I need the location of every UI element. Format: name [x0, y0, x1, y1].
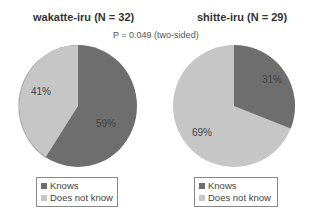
- right-legend-item-knows: Knows: [199, 180, 273, 192]
- right-pie-chart: 31% 69%: [171, 43, 299, 171]
- light-swatch-icon: [199, 195, 205, 201]
- legend-label: Does not know: [208, 192, 271, 204]
- left-pie-chart: 41% 59%: [18, 43, 140, 171]
- right-label-knows: 31%: [262, 74, 282, 85]
- dark-swatch-icon: [41, 183, 47, 189]
- legend-label: Knows: [50, 180, 79, 192]
- right-legend: Knows Does not know: [194, 177, 278, 207]
- legend-label: Knows: [208, 180, 237, 192]
- right-label-not: 69%: [192, 127, 212, 138]
- right-chart-title: shitte-iru (N = 29): [197, 11, 287, 23]
- left-label-knows: 59%: [96, 118, 116, 129]
- light-swatch-icon: [41, 195, 47, 201]
- left-chart-title: wakatte-iru (N = 32): [33, 11, 134, 23]
- left-legend-item-does-not-know: Does not know: [41, 192, 113, 204]
- left-legend-item-knows: Knows: [41, 180, 113, 192]
- p-value-annotation: P = 0.049 (two-sided): [113, 30, 199, 40]
- left-label-not: 41%: [31, 86, 51, 97]
- legend-label: Does not know: [50, 192, 113, 204]
- dark-swatch-icon: [199, 183, 205, 189]
- left-legend: Knows Does not know: [36, 177, 118, 207]
- right-legend-item-does-not-know: Does not know: [199, 192, 273, 204]
